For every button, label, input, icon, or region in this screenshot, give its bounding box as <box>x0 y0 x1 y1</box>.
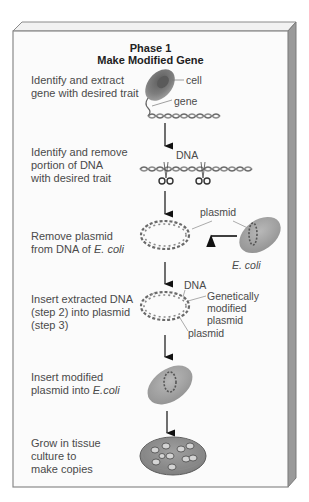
step-2-text: Identify and remove portion of DNA with … <box>31 146 128 185</box>
cell-label: cell <box>186 74 202 86</box>
modified-plasmid-label: Genetically modified plasmid <box>207 290 259 326</box>
plasmid-label: plasmid <box>188 327 224 339</box>
plasmid-label: plasmid <box>200 206 236 218</box>
dna-label: DNA <box>184 279 206 291</box>
step-1-text: Identify and extract gene with desired t… <box>31 74 139 100</box>
culture-dish-icon <box>140 437 206 475</box>
ecoli-label: E. coli <box>232 259 261 271</box>
step-4-text: Insert extracted DNA (step 2) into plasm… <box>31 293 133 332</box>
gene-label: gene <box>174 95 197 107</box>
diagram-title-line1: Phase 1 <box>13 42 288 54</box>
step-6-text: Grow in tissue culture to make copies <box>31 437 101 476</box>
step-5-text: Insert modified plasmid into E.coli <box>31 371 120 397</box>
step-3-text: Remove plasmid from DNA of E. coli <box>31 230 124 256</box>
phase1-diagram: Phase 1 Make Modified Gene Identify and … <box>0 0 309 502</box>
dna-label: DNA <box>176 149 198 161</box>
diagram-title-line2: Make Modified Gene <box>13 54 288 66</box>
